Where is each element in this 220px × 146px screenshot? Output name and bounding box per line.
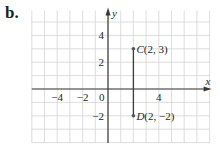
x-tick-label: −4: [51, 91, 63, 103]
x-tick-label: 4: [156, 91, 162, 103]
point-d-label: D(2, −2): [135, 110, 174, 123]
grid-lines: [32, 11, 210, 144]
x-axis-label: x: [205, 75, 211, 87]
y-axis-label: y: [111, 7, 117, 19]
y-tick-label: 2: [99, 56, 105, 68]
x-axis-arrow-icon: [204, 87, 212, 92]
y-tick-label: −2: [92, 110, 104, 122]
axes: xy: [32, 7, 212, 144]
point-c-label: C(2, 3): [136, 43, 168, 56]
coordinate-plane: xy −4−20442−2 C(2, 3)D(2, −2): [0, 0, 220, 146]
x-tick-label: 0: [99, 91, 105, 103]
coordinate-plane-figure: b. xy −4−20442−2 C(2, 3)D(2, −2): [0, 0, 220, 146]
x-tick-label: −2: [77, 91, 89, 103]
point-c-marker: [132, 47, 136, 51]
points: C(2, 3)D(2, −2): [132, 43, 175, 123]
y-tick-label: 4: [99, 29, 105, 41]
point-d-marker: [132, 114, 136, 118]
y-axis-arrow-icon: [106, 8, 111, 16]
